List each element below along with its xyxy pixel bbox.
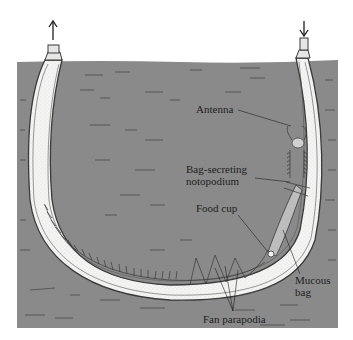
inflow-arrow-icon (300, 21, 308, 36)
label-notopodium-line2: notopodium (186, 175, 240, 187)
food-cup (268, 251, 274, 257)
left-tube-chimney (45, 45, 62, 60)
label-antenna: Antenna (196, 103, 233, 115)
worm-burrow-diagram: Antenna Bag-secreting notopodium Food cu… (0, 0, 353, 340)
label-food-cup: Food cup (196, 202, 238, 214)
label-fan-parapodia: Fan parapodia (203, 313, 266, 325)
right-tube-chimney (296, 38, 310, 58)
label-mucous-line2: bag (295, 286, 311, 298)
label-mucous-line1: Mucous (295, 274, 330, 286)
outflow-arrow-icon (49, 21, 57, 40)
label-notopodium-line1: Bag-secreting (186, 163, 248, 175)
